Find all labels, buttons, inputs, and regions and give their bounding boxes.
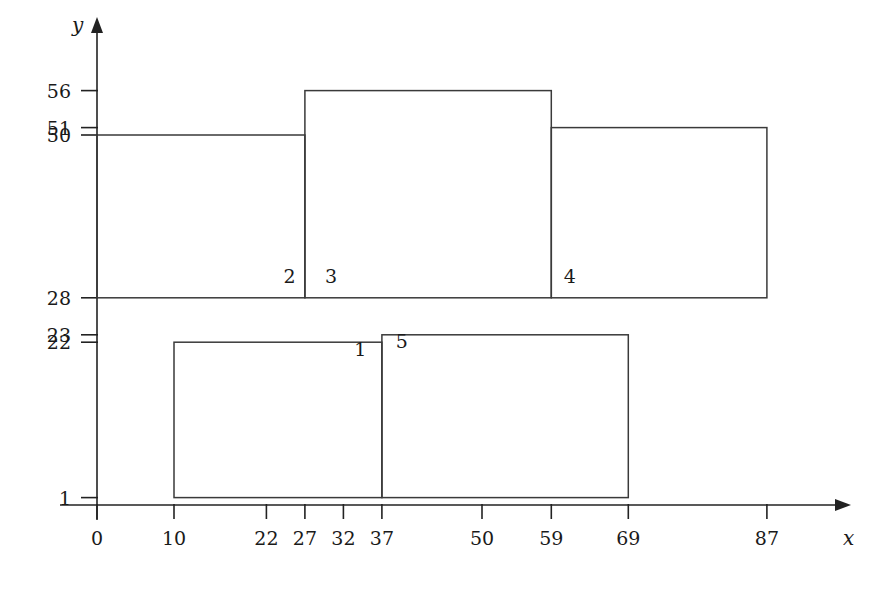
rectangle-label-4: 4 — [564, 265, 576, 287]
rectangle-label-5: 5 — [396, 330, 408, 352]
x-axis-arrowhead — [835, 499, 851, 511]
rectangle-1 — [174, 342, 382, 497]
x-tick-label: 87 — [755, 527, 779, 549]
rectangle-3 — [305, 91, 551, 298]
x-tick-label: 32 — [331, 527, 355, 549]
x-tick-label: 22 — [254, 527, 278, 549]
x-axis-label: x — [843, 526, 854, 550]
x-tick-label: 10 — [162, 527, 186, 549]
rectangle-4 — [551, 128, 767, 298]
x-tick-label: 0 — [91, 527, 103, 549]
y-axis-label: y — [71, 13, 84, 37]
y-tick-label: 51 — [47, 117, 71, 139]
rectangle-5 — [382, 335, 628, 498]
y-tick-label: 56 — [47, 80, 71, 102]
y-tick-label: 1 — [59, 487, 71, 509]
x-tick-label: 69 — [616, 527, 640, 549]
x-tick-label: 50 — [470, 527, 494, 549]
rectangle-label-2: 2 — [283, 265, 295, 287]
y-axis-arrowhead — [91, 17, 103, 33]
diagram-canvas: x y 0102227323750596987 1222328505156 12… — [0, 0, 875, 602]
x-tick-label: 27 — [293, 527, 317, 549]
y-axis-ticks: 1222328505156 — [47, 80, 98, 509]
rectangles-group — [97, 91, 767, 498]
axes-group: x y — [60, 13, 854, 550]
y-tick-label: 28 — [47, 287, 71, 309]
x-axis-ticks: 0102227323750596987 — [91, 504, 779, 549]
y-tick-label: 23 — [47, 324, 71, 346]
rectangle-2 — [97, 135, 305, 298]
x-tick-label: 59 — [539, 527, 563, 549]
rectangle-label-1: 1 — [354, 338, 366, 360]
x-tick-label: 37 — [370, 527, 394, 549]
rectangle-labels-group: 12345 — [283, 265, 575, 360]
rectangle-label-3: 3 — [325, 265, 337, 287]
rectangle-diagram-figure: x y 0102227323750596987 1222328505156 12… — [0, 0, 875, 602]
